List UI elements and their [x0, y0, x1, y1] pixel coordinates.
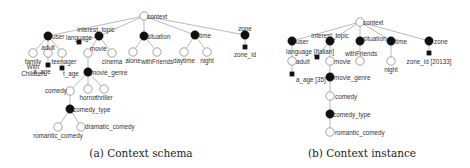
node-zone-id	[243, 45, 248, 50]
context-instance-panel: contextuserinterest_topicsituationtimezo…	[286, 18, 452, 159]
node-alone	[129, 48, 137, 56]
label-movie-genre: movie_genre	[334, 74, 371, 82]
context-schema-panel: contextuserinterest_topicsituationtimezo…	[21, 12, 256, 159]
label-alone: alone	[125, 57, 141, 64]
label-situation: situation	[363, 35, 387, 42]
label-language: language [Italian]	[286, 48, 334, 56]
label-context: context	[147, 13, 168, 20]
node-withFriends	[356, 57, 364, 65]
node-family	[29, 49, 37, 57]
label-interest-topic: interest_topic	[311, 32, 348, 40]
label-situation: situation	[147, 33, 171, 40]
node-time	[191, 31, 199, 39]
edge-situation-alone	[135, 39, 141, 48]
label-dramatic-comedy: dramatic_comedy	[85, 123, 136, 131]
label-night: night	[384, 66, 398, 74]
node-comedy	[66, 87, 74, 95]
label-thriller: thriller	[95, 94, 112, 101]
label-a-age: a_age [35]	[296, 76, 326, 84]
edge-movie_genre-thriller	[91, 75, 101, 86]
edge-time-daytime	[186, 39, 192, 49]
node-romantic-comedy	[326, 128, 334, 136]
node-zone	[241, 31, 249, 39]
node-adult	[288, 57, 296, 65]
schema-labels: contextuserinterest_topicsituationtimezo…	[21, 13, 256, 140]
label-romantic-comedy: romantic_comedy	[33, 132, 84, 140]
label-comedy-type: comedy_type	[333, 111, 371, 119]
label-time: time	[395, 38, 407, 45]
instance-labels: contextuserinterest_topicsituationtimezo…	[286, 19, 452, 137]
instance-caption: (b) Context instance	[308, 147, 416, 159]
label-zone-id: zone_id [20133]	[407, 58, 452, 66]
label-movie: movie	[90, 45, 107, 52]
label-horror: horror	[80, 94, 97, 101]
label-extra: Children	[21, 70, 45, 77]
node-cinema	[108, 49, 116, 57]
label-zone: zone	[238, 25, 252, 32]
node-a-age	[290, 72, 295, 77]
node-movie-genre	[326, 73, 334, 81]
edge-situation-withFriends	[147, 39, 155, 48]
label-adult: adult	[296, 58, 310, 65]
node-zone-id	[427, 51, 432, 56]
label-withFriends: withFriends	[140, 58, 173, 65]
node-zone	[425, 37, 433, 45]
label-daytime: daytime	[173, 57, 196, 65]
node-movie	[326, 57, 334, 65]
label-cinema: cinema	[102, 58, 123, 65]
label-withFriends: withFriends	[344, 50, 377, 57]
node-dramatic-comedy	[77, 123, 85, 131]
node-language	[315, 55, 320, 60]
label-night: night	[200, 57, 214, 65]
label-zone-id: zone_id	[234, 51, 257, 59]
node-user	[44, 32, 52, 40]
node-comedy	[326, 92, 334, 100]
schema-caption: (a) Context schema	[89, 147, 192, 159]
edge-time-night	[197, 38, 204, 48]
node-romantic-comedy	[54, 123, 62, 131]
node-user	[288, 37, 296, 45]
label-interest-topic: interest_topic	[77, 26, 114, 34]
label-adult: adult	[41, 44, 55, 51]
context-diagram: contextuserinterest_topicsituationtimezo…	[0, 0, 470, 168]
label-zone: zone	[434, 38, 448, 45]
node-night	[203, 48, 211, 56]
label-comedy-type: comedy_type	[73, 106, 111, 114]
label-extra: With	[27, 63, 40, 70]
label-user: user	[296, 38, 308, 45]
label-comedy: comedy	[45, 87, 68, 95]
label-comedy: comedy	[335, 93, 358, 101]
label-movie: movie	[334, 58, 351, 65]
node-daytime	[180, 48, 188, 56]
node-horror	[84, 85, 92, 93]
label-context: context	[363, 19, 384, 26]
label-romantic-comedy: romantic_comedy	[335, 129, 386, 137]
label-language: language	[66, 34, 92, 42]
label-teenager: teenager	[52, 58, 77, 66]
node-interest-topic	[95, 32, 103, 40]
edge-comedy_type-dramatic_comedy	[72, 113, 79, 124]
node-time	[387, 37, 395, 45]
node-withFriends	[153, 48, 161, 56]
edge-comedy_type-romantic_comedy	[60, 112, 67, 123]
label-movie-genre: movie_genre	[91, 69, 128, 77]
node-thriller	[100, 85, 108, 93]
label-user: user	[52, 33, 64, 40]
node-teenager	[58, 49, 66, 57]
node-a-age	[46, 63, 51, 68]
label-time: time	[199, 32, 211, 39]
label-t-age: t_age	[63, 70, 79, 78]
node-night	[387, 57, 395, 65]
